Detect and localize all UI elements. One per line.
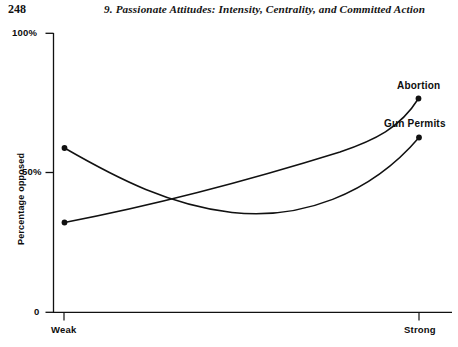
series-line-abortion: [65, 99, 419, 223]
series-marker-abortion-start: [62, 220, 68, 226]
x-axis-label-weak: Weak: [51, 324, 76, 335]
x-axis-label-strong: Strong: [404, 324, 436, 335]
y-axis-label-0: 0: [34, 306, 39, 317]
series-marker-gun-permits-start: [62, 145, 68, 151]
book-page: 248 9. Passionate Attitudes: Intensity, …: [0, 0, 458, 347]
figure-chart: 100% 50% 0 Percentage opposed Weak Stron…: [0, 20, 458, 347]
series-marker-abortion-end: [416, 96, 422, 102]
y-axis-label-100: 100%: [12, 27, 37, 38]
series-label-gun-permits: Gun Permits: [384, 118, 446, 129]
series-marker-gun-permits-end: [416, 135, 422, 141]
page-number: 248: [8, 2, 26, 17]
running-head: 9. Passionate Attitudes: Intensity, Cent…: [104, 3, 454, 15]
y-axis-title: Percentage opposed: [16, 153, 26, 245]
series-line-gun-permits: [65, 138, 420, 214]
chart-svg: [0, 20, 458, 347]
series-label-abortion: Abortion: [397, 80, 440, 91]
